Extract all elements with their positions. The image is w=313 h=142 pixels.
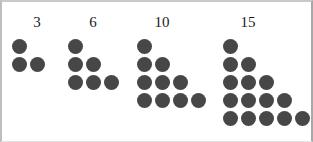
dot — [68, 75, 83, 90]
group-count-label: 15 — [223, 15, 273, 30]
dot — [241, 57, 256, 72]
dot — [173, 75, 188, 90]
dot — [277, 93, 292, 108]
dot — [68, 39, 83, 54]
group-count-label: 3 — [12, 15, 62, 30]
dot — [241, 93, 256, 108]
dot — [86, 75, 101, 90]
dot — [68, 57, 83, 72]
dot — [259, 75, 274, 90]
group-count-label: 10 — [137, 15, 187, 30]
dot — [104, 75, 119, 90]
dot — [173, 93, 188, 108]
dot — [259, 111, 274, 126]
dot — [155, 57, 170, 72]
dot — [137, 93, 152, 108]
dot — [223, 93, 238, 108]
dot — [137, 57, 152, 72]
group-count-label: 6 — [68, 15, 118, 30]
dot — [12, 39, 27, 54]
dot — [155, 93, 170, 108]
dot — [223, 111, 238, 126]
dot — [155, 75, 170, 90]
dot — [259, 93, 274, 108]
dot — [30, 57, 45, 72]
dot — [137, 39, 152, 54]
dot — [137, 75, 152, 90]
dot — [295, 111, 310, 126]
dot — [223, 57, 238, 72]
dot — [86, 57, 101, 72]
dot — [241, 111, 256, 126]
dot — [223, 39, 238, 54]
dot — [191, 93, 206, 108]
dot — [223, 75, 238, 90]
dot — [12, 57, 27, 72]
dot — [277, 111, 292, 126]
triangular-numbers-figure: 361015 — [0, 0, 313, 142]
dot — [241, 75, 256, 90]
